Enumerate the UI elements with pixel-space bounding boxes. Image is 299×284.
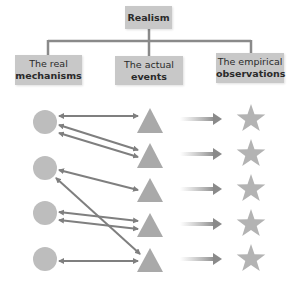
root-label: Realism: [125, 12, 172, 24]
circle-icon: [33, 110, 57, 134]
triangle-icon: [137, 108, 163, 133]
star-icon: [237, 104, 266, 131]
arrow-right-icon: [180, 183, 222, 195]
arrow-right-icon: [180, 253, 222, 265]
root-node-realism: Realism: [125, 6, 172, 29]
category-label-line2: mechanisms: [15, 70, 82, 82]
triangle-icon: [137, 248, 163, 272]
mechanism-circles: [33, 110, 57, 271]
arrow-right-icon: [180, 113, 222, 125]
category-label-line1: The empirical: [216, 56, 284, 68]
double-arrow-icon: [59, 220, 138, 229]
triangle-icon: [137, 178, 163, 202]
double-arrow-icon: [59, 212, 138, 221]
circle-icon: [33, 201, 57, 225]
star-icon: [237, 244, 266, 271]
category-actual-events: The actual events: [115, 56, 183, 85]
star-icon: [237, 139, 266, 166]
circle-icon: [33, 156, 57, 180]
arrow-right-icon: [180, 148, 222, 160]
category-label-line2: events: [115, 71, 183, 83]
circle-icon: [33, 247, 57, 271]
event-triangles: [137, 108, 163, 272]
diagram-canvas: [0, 0, 299, 284]
category-label-line2: observations: [216, 68, 284, 80]
category-label-line1: The real: [15, 58, 82, 70]
tree-connectors: [48, 29, 251, 56]
connection-arrows: [56, 116, 140, 261]
observation-stars: [237, 104, 266, 271]
triangle-icon: [137, 213, 163, 237]
category-label-line1: The actual: [115, 59, 183, 71]
observation-arrows: [180, 113, 222, 265]
star-icon: [237, 174, 266, 201]
category-real-mechanisms: The real mechanisms: [15, 55, 82, 85]
arrow-right-icon: [180, 218, 222, 230]
triangle-icon: [137, 143, 163, 168]
double-arrow-icon: [59, 170, 138, 190]
star-icon: [237, 209, 266, 236]
category-empirical-observations: The empirical observations: [216, 53, 284, 83]
